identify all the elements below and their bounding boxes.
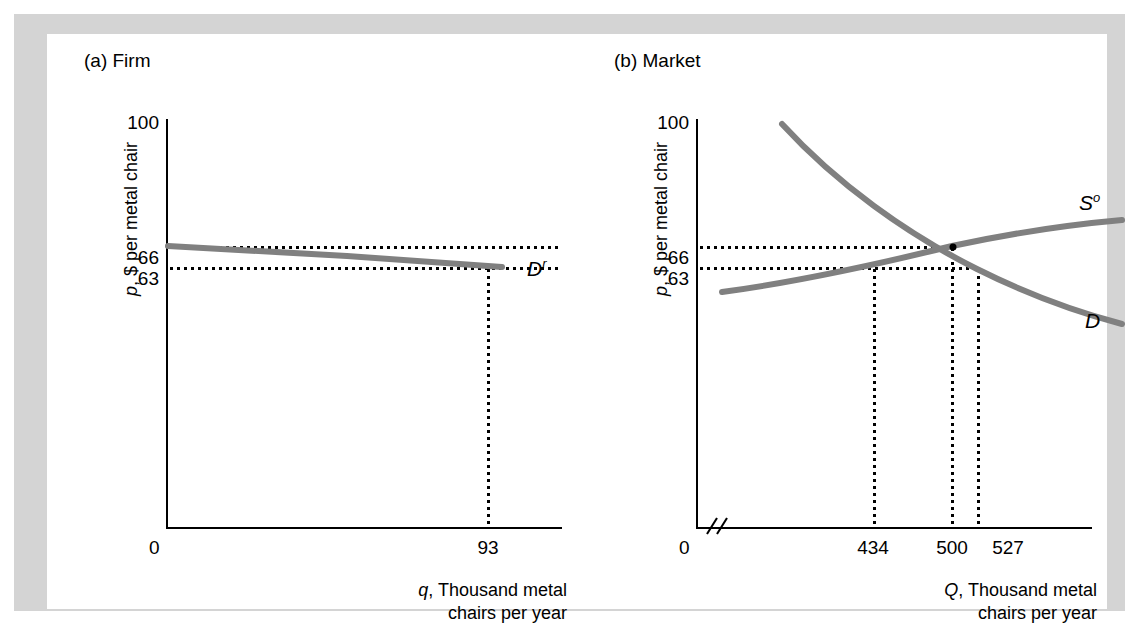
panel-market-x-axis-title-line2: chairs per year bbox=[832, 602, 1097, 625]
panel-firm-x-axis-title-line2: chairs per year bbox=[302, 602, 567, 625]
equilibrium-point bbox=[950, 244, 957, 251]
curve-label-residual-demand-base: D bbox=[527, 257, 542, 280]
panel-firm-curves bbox=[47, 34, 577, 609]
market-supply-curve-So bbox=[722, 220, 1122, 292]
figure-outer-frame: (a) Firm p, $ per metal chair 100 66 63 … bbox=[14, 14, 1125, 611]
figure-canvas: (a) Firm p, $ per metal chair 100 66 63 … bbox=[47, 34, 1107, 609]
curve-label-market-supply-base: S bbox=[1079, 191, 1093, 214]
curve-label-market-demand-base: D bbox=[1085, 309, 1100, 332]
panel-firm-x-axis-title-line1: q, Thousand metal bbox=[302, 579, 567, 602]
panel-firm-xtick-93: 93 bbox=[458, 537, 518, 559]
panel-firm-origin-label: 0 bbox=[149, 537, 160, 559]
panel-firm: (a) Firm p, $ per metal chair 100 66 63 … bbox=[47, 34, 577, 609]
panel-market-curves bbox=[577, 34, 1107, 609]
curve-label-market-supply-sup: o bbox=[1093, 190, 1100, 205]
panel-market-xtick-500: 500 bbox=[922, 537, 982, 559]
curve-label-market-demand: D bbox=[1085, 309, 1100, 333]
panel-market-xtick-527: 527 bbox=[978, 537, 1038, 559]
residual-demand-curve-Dr bbox=[168, 246, 502, 267]
curve-label-residual-demand: Dr bbox=[527, 256, 547, 281]
panel-market: (b) Market p, $ per metal chair 100 66 6… bbox=[577, 34, 1107, 609]
panel-firm-x-axis-title: q, Thousand metal chairs per year bbox=[302, 579, 567, 624]
curve-label-residual-demand-sup: r bbox=[542, 256, 546, 271]
panel-market-x-axis-title-line1: Q, Thousand metal bbox=[832, 579, 1097, 602]
panel-market-xtick-434: 434 bbox=[843, 537, 903, 559]
panel-market-x-axis-title: Q, Thousand metal chairs per year bbox=[832, 579, 1097, 624]
curve-label-market-supply: So bbox=[1079, 190, 1100, 215]
panel-market-origin-label: 0 bbox=[679, 537, 690, 559]
